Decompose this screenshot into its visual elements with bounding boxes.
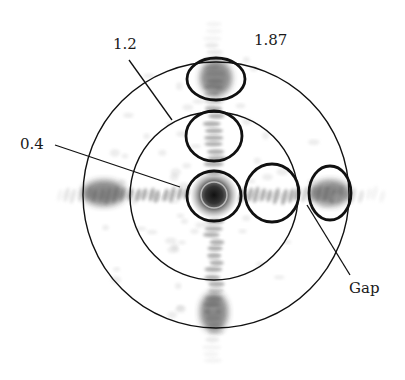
leader-lines [55, 60, 350, 275]
diffraction-figure: 1.2 1.87 0.4 Gap [0, 0, 405, 380]
figure-canvas [0, 0, 405, 380]
label-1-87: 1.87 [254, 33, 287, 48]
label-1-2: 1.2 [113, 37, 137, 52]
speckle-pattern [56, 22, 387, 364]
label-0-4: 0.4 [20, 137, 44, 152]
label-gap: Gap [349, 281, 380, 296]
